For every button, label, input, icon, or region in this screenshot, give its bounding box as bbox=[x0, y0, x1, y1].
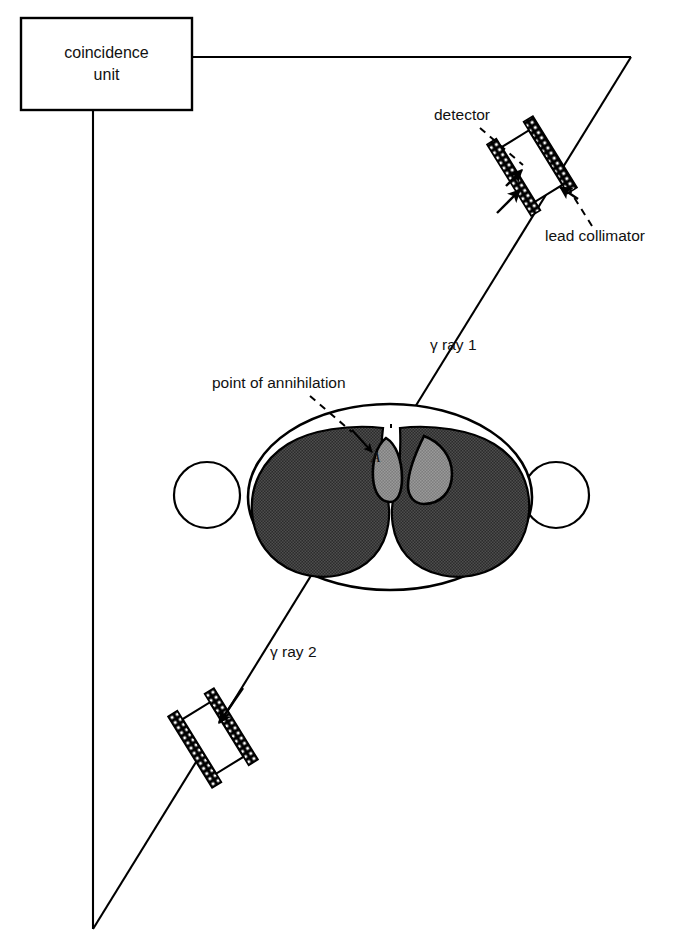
left-ear bbox=[174, 462, 240, 528]
coincidence-unit[interactable]: coincidence unit bbox=[21, 18, 192, 110]
pet-coincidence-diagram: coincidence unit A bbox=[0, 0, 681, 942]
point-of-annihilation-label: point of annihilation bbox=[212, 374, 346, 391]
coincidence-unit-box[interactable] bbox=[21, 18, 192, 110]
gamma-ray-1-label: γ ray 1 bbox=[430, 336, 477, 353]
annihilation-marker-label: A bbox=[370, 449, 381, 465]
gamma-ray-2-label: γ ray 2 bbox=[270, 643, 317, 660]
coincidence-unit-label-line1: coincidence bbox=[64, 44, 149, 61]
lead-collimator-label: lead collimator bbox=[545, 227, 645, 244]
coincidence-unit-label-line2: unit bbox=[94, 66, 120, 83]
detector-label: detector bbox=[434, 106, 490, 123]
